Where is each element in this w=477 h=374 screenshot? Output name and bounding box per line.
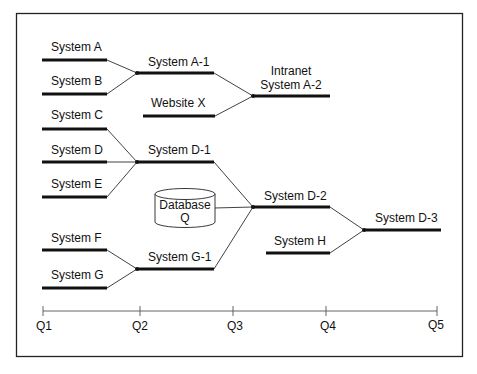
connector-g-to-g1 [107, 269, 137, 288]
junction-d3 [362, 228, 366, 232]
label-system-a: System A [51, 40, 102, 54]
timeline-axis [43, 306, 437, 316]
label-system-d1: System D-1 [148, 143, 211, 157]
connector-a-to-a1 [107, 60, 137, 73]
connector-d1-to-d2 [214, 162, 253, 207]
label-website-x: Website X [151, 96, 205, 110]
connector-g1-to-d2 [214, 207, 253, 269]
label-database: Database [159, 198, 211, 212]
connector-x-to-a2 [215, 96, 253, 116]
label-system-f: System F [51, 231, 102, 245]
connector-c-to-d1 [107, 129, 137, 162]
label-system-d3: System D-3 [375, 211, 438, 225]
junction-g1 [135, 267, 139, 271]
label-system-g: System G [51, 268, 104, 282]
label-intranet: Intranet [271, 64, 312, 78]
connector-db-to-d2 [214, 207, 253, 208]
connector-f-to-g1 [107, 250, 137, 269]
label-system-d2: System D-2 [264, 189, 327, 203]
label-system-c: System C [51, 108, 103, 122]
junction-a2 [251, 94, 255, 98]
label-system-a1: System A-1 [148, 55, 210, 69]
axis-label-q5: Q5 [428, 318, 444, 332]
axis-label-q1: Q1 [36, 319, 52, 333]
system-timeline-diagram: System A System B System A-1 Website X I… [0, 0, 477, 374]
junction-d1 [135, 160, 139, 164]
connector-h-to-d3 [330, 230, 364, 253]
label-database-q: Q [180, 211, 189, 225]
connector-e-to-d1 [107, 162, 137, 197]
axis-label-q4: Q4 [320, 319, 336, 333]
connector-d2-to-d3 [330, 207, 364, 230]
connector-a1-to-a2 [214, 73, 253, 96]
label-system-a2: System A-2 [260, 78, 322, 92]
label-system-h: System H [274, 234, 326, 248]
junction-d2 [251, 205, 255, 209]
connector-b-to-a1 [107, 73, 137, 94]
label-system-g1: System G-1 [148, 250, 212, 264]
label-system-e: System E [51, 177, 102, 191]
label-system-d: System D [51, 143, 103, 157]
label-system-b: System B [51, 74, 102, 88]
junction-a1 [135, 71, 139, 75]
axis-label-q2: Q2 [132, 319, 148, 333]
axis-label-q3: Q3 [227, 319, 243, 333]
